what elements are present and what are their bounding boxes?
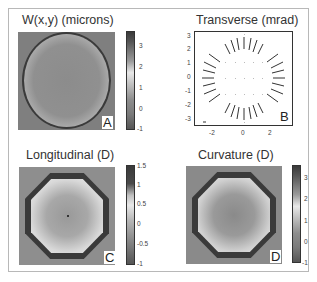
panel-b-title: Transverse (mrad)	[196, 13, 298, 27]
cbar-a-tick: 3	[139, 42, 143, 49]
y-tick: 2	[187, 45, 191, 52]
y-tick: 1	[187, 59, 191, 66]
cbar-a-tick: 1	[139, 84, 143, 91]
y-tick: -1	[185, 87, 191, 94]
cbar-c-tick: 0.5	[137, 200, 146, 207]
cbar-d-tick: 2	[304, 195, 308, 202]
panel-a-colorbar	[126, 31, 135, 130]
cbar-d-tick: -1	[302, 259, 308, 266]
cbar-c-tick: 1.5	[137, 162, 146, 169]
y-tick: 0	[187, 73, 191, 80]
cbar-c-tick: -1	[137, 260, 143, 267]
panel-a-letter: A	[102, 116, 113, 129]
y-tick: -2	[185, 101, 191, 108]
y-tick: -3	[185, 115, 191, 122]
panel-c-letter: C	[104, 251, 115, 264]
x-tick: -2	[209, 129, 215, 136]
panel-b-letter: B	[279, 110, 290, 123]
panel-c-heatmap	[19, 167, 115, 265]
panel-a-title: W(x,y) (microns)	[22, 13, 114, 27]
panel-d-heatmap	[186, 166, 282, 264]
panel-c-colorbar	[126, 165, 135, 265]
cbar-c-tick: -0.5	[137, 240, 148, 247]
cbar-d-tick: 1	[304, 217, 308, 224]
cbar-d-tick: 0	[304, 238, 308, 245]
panel-d-letter: D	[270, 250, 281, 263]
cbar-d-tick: 3	[304, 174, 308, 181]
cbar-a-tick: -1	[137, 125, 143, 132]
panel-d-colorbar	[292, 165, 301, 263]
panel-d-title: Curvature (D)	[198, 148, 274, 162]
panel-a-heatmap	[18, 32, 115, 130]
panel-b-axes: B	[194, 31, 293, 126]
cbar-c-tick: 1	[137, 181, 141, 188]
cbar-c-tick: 0	[137, 220, 141, 227]
y-tick: 3	[187, 32, 191, 39]
x-tick: 0	[241, 129, 245, 136]
x-tick: 2	[268, 129, 272, 136]
cbar-a-tick: 0	[139, 105, 143, 112]
cbar-a-tick: 2	[139, 63, 143, 70]
panel-c-title: Longitudinal (D)	[26, 148, 114, 162]
quiver-arrows	[195, 32, 292, 125]
